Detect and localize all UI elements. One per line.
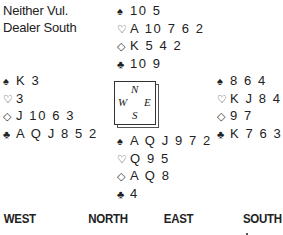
west-spades: ♠K 3 bbox=[3, 72, 98, 90]
north-hand: ♠10 5 ♡A 10 7 6 2 ◇K 5 4 2 ♣10 9 bbox=[117, 2, 205, 72]
compass-south: S bbox=[132, 109, 138, 121]
heart-icon: ♡ bbox=[117, 151, 130, 169]
cropped-bid-mark bbox=[246, 233, 248, 235]
bidding-header-north: NORTH bbox=[88, 212, 128, 226]
club-icon: ♣ bbox=[117, 56, 130, 74]
spade-icon: ♠ bbox=[3, 73, 16, 91]
spade-icon: ♠ bbox=[217, 73, 230, 91]
compass-east: E bbox=[144, 96, 151, 108]
compass-north: N bbox=[131, 83, 138, 95]
dealer-label: Dealer South bbox=[3, 19, 76, 36]
west-clubs: ♣A Q J 8 5 2 bbox=[3, 125, 98, 143]
club-icon: ♣ bbox=[3, 126, 16, 144]
east-hand: ♠8 6 4 ♡K J 8 4 ◇9 7 ♣K 7 6 3 bbox=[217, 72, 282, 142]
north-diamonds: ◇K 5 4 2 bbox=[117, 37, 205, 55]
south-spades: ♠A Q J 9 7 2 bbox=[117, 132, 212, 150]
east-diamonds: ◇9 7 bbox=[217, 107, 282, 125]
south-hand: ♠A Q J 9 7 2 ♡Q 9 5 ◇A Q 8 ♣4 bbox=[117, 132, 212, 202]
bidding-header: WEST NORTH EAST SOUTH bbox=[0, 212, 260, 230]
north-clubs: ♣10 9 bbox=[117, 55, 205, 73]
east-clubs: ♣K 7 6 3 bbox=[217, 125, 282, 143]
north-spades: ♠10 5 bbox=[117, 2, 205, 20]
bidding-header-west: WEST bbox=[4, 212, 36, 226]
club-icon: ♣ bbox=[117, 186, 130, 204]
club-icon: ♣ bbox=[217, 126, 230, 144]
spade-icon: ♠ bbox=[117, 133, 130, 151]
south-diamonds: ◇A Q 8 bbox=[117, 167, 212, 185]
west-hand: ♠K 3 ♡3 ◇J 10 6 3 ♣A Q J 8 5 2 bbox=[3, 72, 98, 142]
diamond-icon: ◇ bbox=[117, 38, 130, 56]
west-diamonds: ◇J 10 6 3 bbox=[3, 107, 98, 125]
heart-icon: ♡ bbox=[217, 91, 230, 109]
heart-icon: ♡ bbox=[117, 21, 130, 39]
south-clubs: ♣4 bbox=[117, 185, 212, 203]
bidding-header-south: SOUTH bbox=[243, 212, 282, 226]
east-hearts: ♡K J 8 4 bbox=[217, 90, 282, 108]
diamond-icon: ◇ bbox=[217, 108, 230, 126]
spade-icon: ♠ bbox=[117, 3, 130, 21]
vulnerability-label: Neither Vul. bbox=[3, 2, 76, 19]
compass-west: W bbox=[118, 96, 127, 108]
south-hearts: ♡Q 9 5 bbox=[117, 150, 212, 168]
north-hearts: ♡A 10 7 6 2 bbox=[117, 20, 205, 38]
compass-face: N W E S bbox=[114, 81, 156, 125]
bidding-header-east: EAST bbox=[164, 212, 194, 226]
compass-box: N W E S bbox=[114, 81, 156, 125]
deal-info: Neither Vul. Dealer South bbox=[3, 2, 76, 36]
diamond-icon: ◇ bbox=[117, 168, 130, 186]
west-hearts: ♡3 bbox=[3, 90, 98, 108]
diamond-icon: ◇ bbox=[3, 108, 16, 126]
east-spades: ♠8 6 4 bbox=[217, 72, 282, 90]
heart-icon: ♡ bbox=[3, 91, 16, 109]
